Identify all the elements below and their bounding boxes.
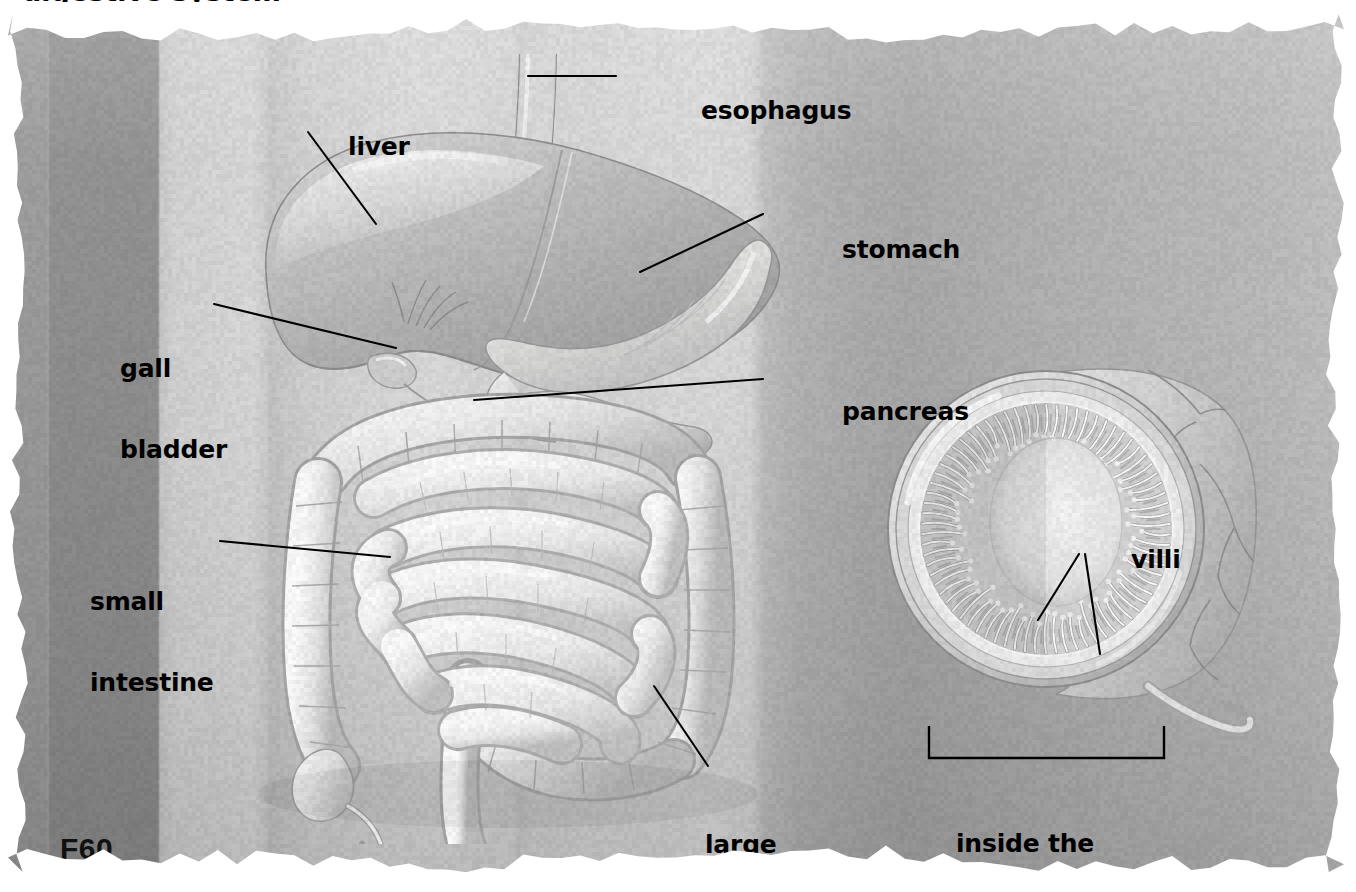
illustration-plate: esophagus liver stomach gall bladder pan…: [8, 14, 1344, 872]
running-head: digestive system: [22, 0, 922, 2]
paper-grain: [8, 14, 1344, 872]
figure-page: digestive system: [0, 0, 1356, 892]
